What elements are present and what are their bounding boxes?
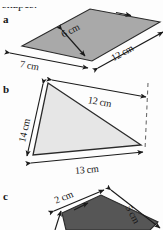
dashed-reference-line-b	[145, 83, 148, 150]
dimension-arrow-c-left-edge	[55, 211, 61, 230]
part-label-a: a	[3, 14, 9, 25]
geometry-figure	[0, 0, 163, 230]
part-label-c: c	[3, 191, 8, 202]
dimension-label-b-base: 13 cm	[75, 164, 100, 176]
shape-a-parallelogram	[22, 9, 160, 61]
part-label-b: b	[3, 84, 9, 95]
figure-page: shapes. a b c 6 cm 12 cm 7 cm 12 cm 14 c…	[0, 0, 163, 230]
top-crop-mask	[0, 0, 163, 7]
shape-b-triangle	[33, 83, 141, 155]
shape-c-quadrilateral	[62, 195, 158, 230]
